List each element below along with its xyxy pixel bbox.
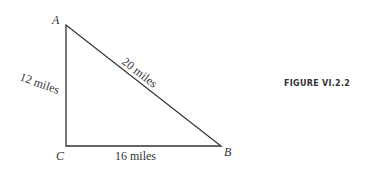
vertex-label-b: B bbox=[224, 145, 232, 159]
side-label-cb: 16 miles bbox=[115, 149, 156, 163]
side-label-ab: 20 miles bbox=[119, 54, 160, 90]
vertex-label-a: A bbox=[51, 13, 60, 27]
vertex-label-c: C bbox=[56, 149, 65, 163]
side-label-ac: 12 miles bbox=[18, 70, 62, 97]
figure-diagram: A C B 12 miles 20 miles 16 miles FIGURE … bbox=[0, 0, 374, 172]
figure-caption: FIGURE VI.2.2 bbox=[284, 79, 350, 88]
right-triangle bbox=[66, 25, 221, 146]
